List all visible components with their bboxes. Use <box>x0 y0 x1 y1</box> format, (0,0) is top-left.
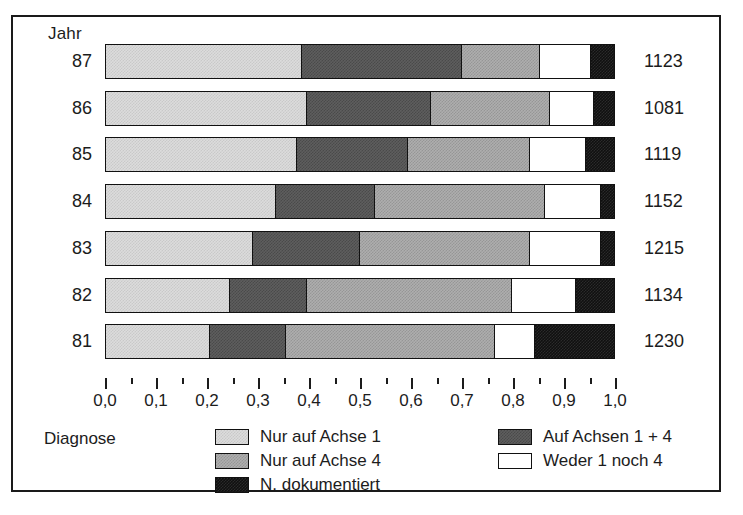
bar-segment <box>360 232 530 265</box>
x-tick-minor <box>539 378 541 384</box>
x-tick-label: 0,0 <box>82 391 128 411</box>
y-axis-title: Jahr <box>48 24 82 44</box>
chart-figure: Jahr 0,00,10,20,30,40,50,60,70,80,91,0 D… <box>0 0 743 515</box>
legend-label: N. dokumentiert <box>260 475 380 495</box>
bar-row <box>105 278 615 313</box>
row-total-label: 1081 <box>644 98 704 119</box>
x-tick-label: 0,2 <box>184 391 230 411</box>
bar-segment <box>550 92 593 125</box>
bar-segment <box>530 232 601 265</box>
bar-segment <box>408 138 530 171</box>
legend-title: Diagnose <box>44 429 116 449</box>
chart-legend: Diagnose Nur auf Achse 1Nur auf Achse 4N… <box>0 425 743 495</box>
bar-segment <box>601 185 614 218</box>
x-tick-major <box>258 378 260 389</box>
legend-column-1: Nur auf Achse 1Nur auf Achse 4N. dokumen… <box>215 425 381 497</box>
x-tick-minor <box>386 378 388 384</box>
legend-item: Nur auf Achse 4 <box>215 449 381 472</box>
x-tick-major <box>513 378 515 389</box>
x-tick-major <box>411 378 413 389</box>
x-tick-label: 0,3 <box>235 391 281 411</box>
bar-segment <box>576 279 614 312</box>
legend-column-2: Auf Achsen 1 + 4Weder 1 noch 4 <box>498 425 672 473</box>
x-tick-major <box>462 378 464 389</box>
bar-segment <box>106 185 276 218</box>
legend-swatch <box>498 453 532 469</box>
bar-segment <box>106 232 253 265</box>
bar-segment <box>462 45 541 78</box>
row-total-label: 1152 <box>644 191 704 212</box>
bar-segment <box>106 92 307 125</box>
x-tick-minor <box>488 378 490 384</box>
bar-segment <box>431 92 550 125</box>
x-tick-minor <box>335 378 337 384</box>
bar-segment <box>297 138 409 171</box>
bar-segment <box>512 279 576 312</box>
x-tick-major <box>105 378 107 389</box>
x-tick-major <box>564 378 566 389</box>
x-tick-minor <box>233 378 235 384</box>
bar-segment <box>276 185 375 218</box>
x-tick-label: 0,4 <box>286 391 332 411</box>
legend-item: N. dokumentiert <box>215 473 381 496</box>
legend-label: Nur auf Achse 1 <box>260 427 381 447</box>
row-total-label: 1215 <box>644 238 704 259</box>
plot-area <box>105 44 615 374</box>
x-tick-label: 0,5 <box>337 391 383 411</box>
legend-swatch <box>215 453 249 469</box>
bar-segment <box>586 138 614 171</box>
legend-label: Nur auf Achse 4 <box>260 451 381 471</box>
x-tick-minor <box>131 378 133 384</box>
year-label: 85 <box>50 144 92 165</box>
year-label: 83 <box>50 238 92 259</box>
row-total-label: 1134 <box>644 285 704 306</box>
legend-item: Weder 1 noch 4 <box>498 449 672 472</box>
bar-segment <box>601 232 614 265</box>
bar-segment <box>540 45 591 78</box>
legend-label: Weder 1 noch 4 <box>543 451 663 471</box>
bar-segment <box>230 279 306 312</box>
x-tick-major <box>615 378 617 389</box>
row-total-label: 1119 <box>644 144 704 165</box>
x-tick-label: 0,7 <box>439 391 485 411</box>
year-label: 81 <box>50 331 92 352</box>
x-tick-label: 0,6 <box>388 391 434 411</box>
bar-row <box>105 184 615 219</box>
bar-segment <box>594 92 614 125</box>
x-tick-minor <box>437 378 439 384</box>
bar-row <box>105 137 615 172</box>
x-tick-minor <box>590 378 592 384</box>
bar-segment <box>253 232 360 265</box>
bar-segment <box>535 325 614 358</box>
bar-row <box>105 231 615 266</box>
x-tick-major <box>156 378 158 389</box>
bar-row <box>105 91 615 126</box>
year-label: 82 <box>50 285 92 306</box>
legend-swatch <box>498 429 532 445</box>
bar-segment <box>106 45 302 78</box>
x-tick-label: 0,1 <box>133 391 179 411</box>
bar-row <box>105 324 615 359</box>
legend-item: Auf Achsen 1 + 4 <box>498 425 672 448</box>
x-tick-label: 0,9 <box>541 391 587 411</box>
row-total-label: 1230 <box>644 331 704 352</box>
x-tick-major <box>207 378 209 389</box>
bar-segment <box>106 138 297 171</box>
bar-segment <box>545 185 601 218</box>
bar-segment <box>375 185 545 218</box>
x-tick-minor <box>182 378 184 384</box>
bar-segment <box>106 279 230 312</box>
bar-segment <box>591 45 614 78</box>
x-tick-major <box>309 378 311 389</box>
legend-label: Auf Achsen 1 + 4 <box>543 427 672 447</box>
x-tick-label: 1,0 <box>592 391 638 411</box>
bar-segment <box>302 45 462 78</box>
bar-segment <box>307 92 431 125</box>
x-tick-major <box>360 378 362 389</box>
bar-segment <box>495 325 536 358</box>
legend-swatch <box>215 477 249 493</box>
year-label: 84 <box>50 191 92 212</box>
bar-segment <box>210 325 286 358</box>
x-tick-label: 0,8 <box>490 391 536 411</box>
legend-swatch <box>215 429 249 445</box>
